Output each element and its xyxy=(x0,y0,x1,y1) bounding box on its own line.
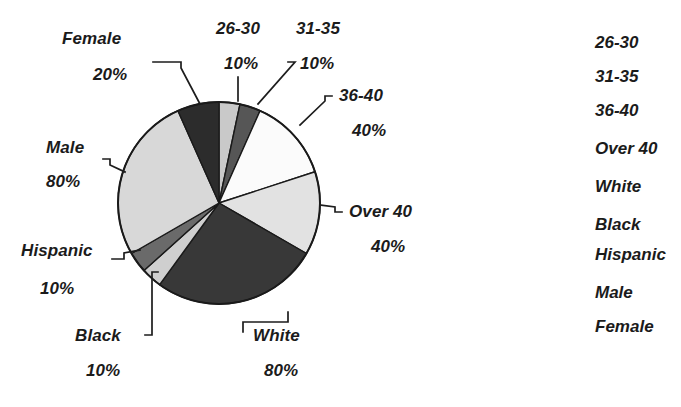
callout-31-35-value: 10% xyxy=(300,53,334,74)
callout-over-40-value: 40% xyxy=(371,236,405,257)
callout-26-30-name: 26-30 xyxy=(216,18,260,39)
legend-item-36-40[interactable]: 36-40 xyxy=(595,101,638,121)
legend-item-white[interactable]: White xyxy=(595,177,641,197)
callout-white-value: 80% xyxy=(264,360,298,381)
callout-black-value: 10% xyxy=(86,360,120,381)
leader-36-40 xyxy=(300,96,332,125)
legend-item-male[interactable]: Male xyxy=(595,283,633,303)
legend-item-female[interactable]: Female xyxy=(595,317,654,337)
callout-white-name: White xyxy=(253,325,300,346)
leader-over-40 xyxy=(320,205,342,212)
callout-36-40-value: 40% xyxy=(352,120,386,141)
callout-female-value: 20% xyxy=(93,64,127,85)
callout-male-name: Male xyxy=(46,137,84,158)
callout-hispanic-name: Hispanic xyxy=(21,240,93,261)
pie-chart-figure: Female 20% 26-30 10% 31-35 10% 36-40 40%… xyxy=(0,0,681,407)
callout-hispanic-value: 10% xyxy=(40,278,74,299)
callout-31-35-name: 31-35 xyxy=(296,18,340,39)
callout-26-30-value: 10% xyxy=(224,53,258,74)
legend-item-over-40[interactable]: Over 40 xyxy=(595,139,657,159)
legend-item-26-30[interactable]: 26-30 xyxy=(595,33,638,53)
leader-hispanic xyxy=(112,250,140,259)
legend-item-black[interactable]: Black xyxy=(595,215,640,235)
leader-male xyxy=(103,159,125,172)
callout-36-40-name: 36-40 xyxy=(339,85,383,106)
leader-31-35 xyxy=(258,62,295,104)
callout-female-name: Female xyxy=(62,28,121,49)
callout-black-name: Black xyxy=(75,325,121,346)
legend-item-hispanic[interactable]: Hispanic xyxy=(595,245,666,265)
legend-item-31-35[interactable]: 31-35 xyxy=(595,67,638,87)
leader-female xyxy=(153,62,200,104)
leader-black xyxy=(145,272,158,335)
callout-over-40-name: Over 40 xyxy=(349,201,412,222)
callout-male-value: 80% xyxy=(46,171,80,192)
